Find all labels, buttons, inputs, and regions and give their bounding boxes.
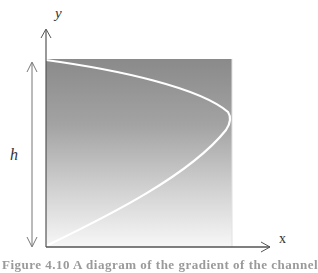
x-axis-label: x	[279, 232, 286, 246]
figure-caption: Figure 4.10 A diagram of the gradient of…	[2, 257, 318, 273]
height-label: h	[10, 147, 18, 163]
y-axis-label: y	[55, 6, 62, 21]
height-dimension-arrow	[27, 62, 37, 247]
